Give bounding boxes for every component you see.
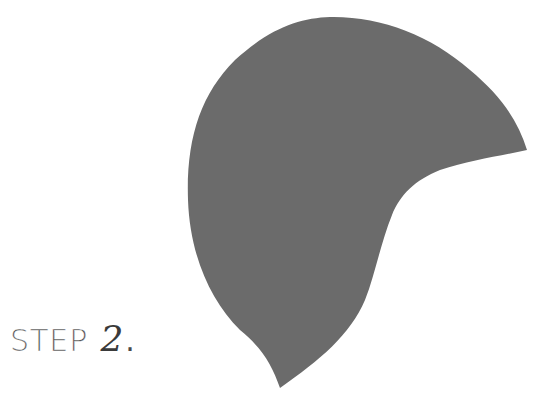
hat-pattern-shape xyxy=(188,17,527,388)
step-period: . xyxy=(125,323,135,358)
step-word: STEP xyxy=(10,323,88,358)
step-number: 2 xyxy=(100,318,123,359)
step-label: STEP 2 . xyxy=(10,318,135,368)
